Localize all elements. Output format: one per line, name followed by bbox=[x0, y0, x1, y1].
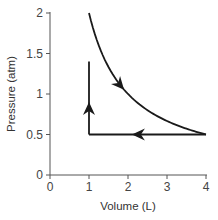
x-axis-label: Volume (L) bbox=[100, 200, 156, 212]
x-tick-label: 2 bbox=[125, 180, 132, 194]
y-tick-label: 1 bbox=[36, 87, 43, 101]
y-tick-label: 1.5 bbox=[26, 47, 43, 61]
x-tick-label: 0 bbox=[47, 180, 54, 194]
y-ticks: 00.511.52 bbox=[26, 6, 50, 182]
pv-diagram: 00.511.52 01234 Volume (L) Pressure (atm… bbox=[0, 0, 218, 220]
x-ticks: 01234 bbox=[47, 175, 210, 194]
isotherm-curve bbox=[89, 13, 206, 135]
data-series bbox=[83, 13, 206, 141]
y-tick-label: 2 bbox=[36, 6, 43, 20]
y-axis-label: Pressure (atm) bbox=[5, 56, 17, 132]
y-tick-label: 0 bbox=[36, 168, 43, 182]
y-tick-label: 0.5 bbox=[26, 128, 43, 142]
x-tick-label: 4 bbox=[203, 180, 210, 194]
x-tick-label: 3 bbox=[164, 180, 171, 194]
x-tick-label: 1 bbox=[86, 180, 93, 194]
